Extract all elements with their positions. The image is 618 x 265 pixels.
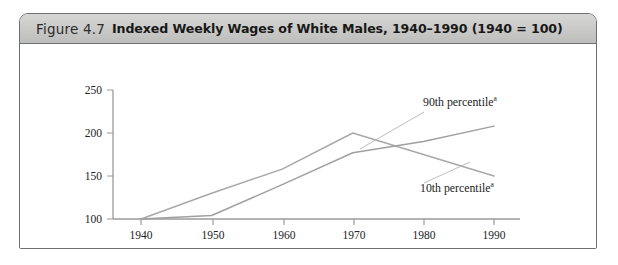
figure-title: Indexed Weekly Wages of White Males, 194… (112, 21, 563, 36)
series-annotation-90th-text: 90th percentile (423, 95, 493, 109)
y-axis-label-250: 250 (72, 84, 102, 96)
x-axis-label-1970: 1970 (334, 229, 374, 241)
x-axis-label-1940: 1940 (121, 229, 161, 241)
x-axis-label-1990: 1990 (474, 229, 514, 241)
y-axis-label-100: 100 (72, 213, 102, 225)
x-axis-label-1950: 1950 (193, 229, 233, 241)
plot-area: 250 200 150 100 1940 1950 1960 1970 1980… (20, 44, 596, 248)
series-annotation-90th-percentile: 90th percentilea (423, 94, 497, 110)
footnote-marker-10th: a (490, 180, 493, 189)
series-line-10th-percentile (141, 133, 494, 219)
figure-number: Figure 4.7 (36, 21, 105, 37)
figure-caption-bar: Figure 4.7 Indexed Weekly Wages of White… (20, 14, 596, 44)
series-annotation-10th-text: 10th percentile (420, 181, 490, 195)
series-line-90th-percentile (141, 126, 494, 219)
footnote-marker-90th: a (493, 94, 496, 103)
x-axis-label-1960: 1960 (264, 229, 304, 241)
y-axis-label-200: 200 (72, 127, 102, 139)
x-axis-label-1980: 1980 (404, 229, 444, 241)
figure-panel: Figure 4.7 Indexed Weekly Wages of White… (19, 13, 597, 249)
line-chart-svg (20, 44, 596, 248)
y-axis-label-150: 150 (72, 170, 102, 182)
series-annotation-10th-percentile: 10th percentilea (420, 180, 494, 196)
